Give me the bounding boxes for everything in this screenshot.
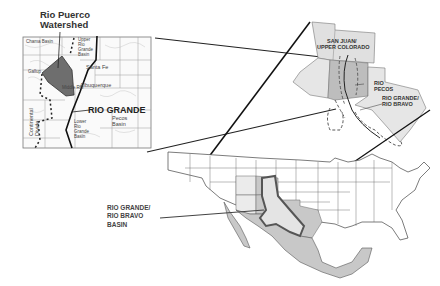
us-mexico-map: [160, 152, 430, 278]
region-text: RIO BRAVO: [382, 101, 419, 107]
place-text: Basin: [78, 53, 93, 58]
region-text: UPPER COLORADO: [317, 44, 370, 50]
map-canvas: [0, 0, 440, 286]
continental-divide-label: Continental Divide: [28, 108, 40, 136]
label-san-juan: SAN JUAN/ UPPER COLORADO: [317, 38, 370, 50]
projection-line-bold: [208, 22, 310, 158]
watershed-title-line2: Watershed: [40, 20, 90, 30]
place-middle-rio: Middle Rio: [62, 86, 83, 91]
place-pecos-basin: Pecos Basin: [112, 115, 127, 127]
projection-line: [155, 38, 330, 58]
label-rio-pecos: RIO PECOS: [374, 80, 393, 92]
place-santa-fe: Santa Fe: [86, 64, 108, 70]
map-figure: Rio Puerco Watershed RIO GRANDE Chama Ba…: [0, 0, 440, 286]
label-rio-grande-bravo: RIO GRANDE/ RIO BRAVO: [382, 95, 419, 107]
place-text: Divide: [34, 108, 40, 136]
watershed-title: Rio Puerco Watershed: [40, 10, 90, 31]
place-text: Basin: [112, 121, 127, 127]
region-text: PECOS: [374, 86, 393, 92]
projection-line: [147, 109, 336, 152]
place-gallup: Gallup: [28, 70, 41, 75]
place-chama: Chama Basin: [26, 40, 53, 45]
place-lower-rio-grande: Lower Rio Grande Basin: [74, 120, 89, 140]
basin-text: BASIN: [107, 221, 150, 229]
basin-text: RIO GRANDE/: [107, 204, 150, 212]
place-upper-rio-grande: Upper Rio Grande Basin: [78, 38, 93, 58]
basin-text: RIO BRAVO: [107, 212, 150, 220]
place-albuquerque: Albuquerque: [80, 82, 111, 88]
basin-label: RIO GRANDE/ RIO BRAVO BASIN: [107, 204, 150, 229]
place-text: Basin: [74, 135, 89, 140]
